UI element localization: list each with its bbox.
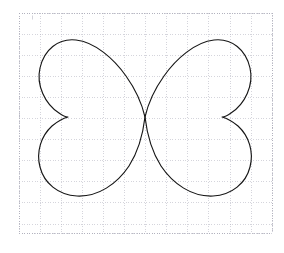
- figure-background: [0, 0, 284, 253]
- plot-canvas: [0, 0, 284, 253]
- butterfly-curve-figure: [0, 0, 284, 253]
